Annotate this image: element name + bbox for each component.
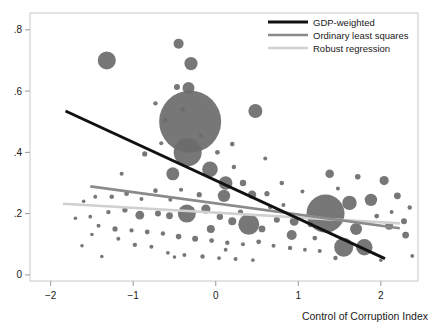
x-tick-label: 0 (213, 290, 219, 301)
scatter-bubble (217, 213, 223, 219)
scatter-bubble (82, 200, 86, 204)
scatter-bubble (410, 254, 414, 258)
scatter-bubble (109, 194, 114, 199)
scatter-bubble (312, 236, 317, 241)
scatter-bubble (199, 134, 203, 138)
x-axis-ticks: −2−1012 (45, 281, 384, 301)
scatter-bubble (112, 226, 117, 231)
legend-label: GDP-weighted (313, 17, 375, 28)
scatter-bubble (263, 156, 267, 160)
scatter-bubble (248, 104, 262, 118)
scatter-bubble (176, 234, 182, 240)
legend-label: Ordinary least squares (313, 30, 409, 41)
scatter-bubble (98, 51, 116, 69)
scatter-bubble (401, 218, 407, 224)
scatter-bubble (106, 210, 110, 214)
scatter-bubble (259, 226, 266, 233)
chart-legend: GDP-weightedOrdinary least squaresRobust… (268, 17, 409, 54)
scatter-bubble (153, 101, 157, 105)
scatter-bubble (129, 228, 133, 232)
data-points (74, 39, 415, 262)
scatter-bubble (336, 187, 340, 191)
scatter-bubble (240, 180, 246, 186)
scatter-bubble (161, 231, 165, 235)
scatter-bubble (155, 211, 161, 217)
scatter-bubble (230, 142, 235, 147)
scatter-bubble (192, 236, 198, 242)
y-tick-label: 0 (16, 269, 22, 280)
scatter-bubble (93, 195, 97, 199)
scatter-bubble (173, 255, 177, 259)
scatter-bubble (178, 205, 196, 223)
scatter-bubble (97, 224, 101, 228)
scatter-bubble (232, 165, 236, 169)
scatter-bubble (234, 257, 238, 261)
scatter-bubble (80, 244, 84, 248)
scatter-bubble (355, 174, 361, 180)
scatter-bubble (135, 211, 144, 220)
scatter-bubble (300, 190, 304, 194)
scatter-bubble (184, 57, 197, 70)
y-tick-label: .6 (14, 86, 23, 97)
scatter-bubble (207, 225, 215, 233)
scatter-bubble (209, 238, 214, 243)
y-axis-ticks: 0.2.4.6.8 (14, 24, 30, 280)
scatter-bubble (179, 188, 183, 192)
scatter-bubble (318, 249, 322, 253)
x-axis-title: Control of Corruption Index (302, 310, 429, 322)
scatter-bubble (133, 243, 137, 247)
scatter-bubble (281, 203, 285, 207)
scatter-plot: −2−1012 0.2.4.6.8 GDP-weightedOrdinary l… (0, 0, 433, 331)
scatter-bubble (159, 141, 163, 145)
scatter-bubble (139, 197, 143, 201)
scatter-bubble (264, 191, 269, 196)
scatter-bubble (182, 253, 186, 257)
scatter-bubble (333, 256, 337, 260)
y-tick-label: .8 (14, 24, 23, 35)
scatter-bubble (218, 190, 230, 202)
scatter-bubble (166, 212, 173, 219)
scatter-bubble (90, 233, 94, 237)
x-tick-label: −2 (45, 290, 57, 301)
scatter-bubble (153, 188, 158, 193)
x-tick-label: 1 (296, 290, 302, 301)
scatter-bubble (217, 256, 221, 260)
scatter-bubble (224, 248, 228, 252)
scatter-bubble (272, 244, 276, 248)
scatter-bubble (228, 217, 236, 225)
scatter-bubble (251, 258, 255, 262)
scatter-bubble (307, 195, 345, 233)
scatter-bubble (149, 245, 153, 249)
scatter-bubble (100, 255, 104, 259)
scatter-bubble (142, 151, 147, 156)
scatter-bubble (238, 214, 259, 235)
scatter-bubble (120, 172, 124, 176)
scatter-bubble (225, 241, 229, 245)
scatter-bubble (145, 230, 150, 235)
scatter-bubble (365, 194, 377, 206)
scatter-bubble (342, 196, 356, 210)
scatter-bubble (288, 246, 292, 250)
y-tick-label: .4 (14, 147, 23, 158)
scatter-bubble (287, 230, 297, 240)
regression-line (66, 111, 385, 259)
scatter-bubble (256, 239, 261, 244)
scatter-bubble (200, 254, 204, 258)
scatter-bubble (350, 223, 362, 235)
scatter-bubble (88, 215, 92, 219)
scatter-bubble (215, 150, 220, 155)
chart-container: −2−1012 0.2.4.6.8 GDP-weightedOrdinary l… (0, 0, 433, 331)
scatter-bubble (374, 214, 379, 219)
y-tick-label: .2 (14, 208, 23, 219)
scatter-bubble (408, 205, 412, 209)
scatter-bubble (174, 39, 184, 49)
scatter-bubble (325, 170, 334, 179)
legend-label: Robust regression (313, 43, 390, 54)
scatter-bubble (166, 251, 170, 255)
scatter-bubble (303, 248, 307, 252)
scatter-bubble (166, 167, 179, 180)
scatter-bubble (380, 176, 389, 185)
scatter-bubble (241, 242, 245, 246)
scatter-bubble (402, 232, 409, 239)
scatter-bubble (197, 192, 202, 197)
